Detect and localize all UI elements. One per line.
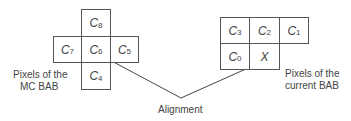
current-cell-c1: C1: [279, 17, 309, 44]
mc-cell-c8: C8: [81, 9, 111, 37]
current-bab-label-line1: Pixels of the: [285, 68, 339, 80]
mc-cell-c4: C4: [81, 62, 111, 90]
mc-cell-c7: C7: [53, 36, 82, 63]
alignment-label: Alignment: [158, 104, 202, 116]
current-cell-c3: C3: [220, 17, 250, 44]
mc-cell-c5: C5: [110, 36, 139, 63]
current-bab-label: Pixels of the current BAB: [285, 68, 339, 92]
current-cell-c2: C2: [249, 17, 280, 44]
mc-bab-label: Pixels of the MC BAB: [13, 69, 67, 93]
current-cell-x: X: [249, 43, 280, 70]
current-cell-c0: C0: [220, 43, 250, 70]
mc-cell-c6: C6: [81, 36, 111, 63]
mc-bab-label-line1: Pixels of the: [13, 69, 67, 81]
current-bab-label-line2: current BAB: [285, 80, 339, 92]
mc-bab-label-line2: MC BAB: [13, 81, 67, 93]
